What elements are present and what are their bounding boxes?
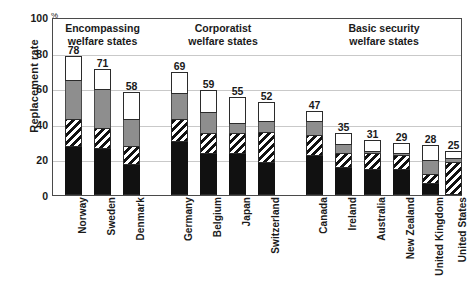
bar-segment-segment-3-gray — [171, 94, 188, 121]
bar-segment-segment-3-gray — [422, 161, 439, 175]
bar-segment-segment-3-gray — [65, 81, 82, 120]
bar-segment-segment-1-black — [258, 163, 275, 195]
x-axis-label-denmark: Denmark — [135, 197, 146, 241]
bar-segment-segment-2-hatched — [258, 133, 275, 163]
bar-segment-segment-4-white — [393, 143, 410, 154]
y-axis-tick-40: 40 — [22, 119, 48, 131]
bar-segment-segment-3-gray — [393, 154, 410, 156]
bar-segment-segment-2-hatched — [123, 147, 140, 165]
bar-new-zealand[interactable] — [393, 143, 410, 195]
bar-segment-segment-1-black — [306, 156, 323, 195]
bar-segment-segment-1-black — [65, 147, 82, 195]
plot-area: Encompassingwelfare statesCorporatistwel… — [52, 18, 462, 196]
bar-norway[interactable] — [65, 56, 82, 195]
bar-segment-segment-2-hatched — [229, 134, 246, 154]
bar-segment-segment-4-white — [65, 56, 82, 81]
bar-japan[interactable] — [229, 97, 246, 195]
bar-segment-segment-4-white — [364, 140, 381, 152]
bar-segment-segment-1-black — [393, 170, 410, 195]
bar-segment-segment-2-hatched — [171, 120, 188, 141]
x-axis-category-labels: NorwaySwedenDenmarkGermanyBelgiumJapanSw… — [0, 197, 467, 285]
bar-value-label: 71 — [85, 57, 120, 69]
stacked-bar-chart: Replacement rate % 020406080100 Encompas… — [0, 0, 467, 285]
x-axis-label-norway: Norway — [77, 197, 88, 234]
bar-germany[interactable] — [171, 72, 188, 195]
bar-segment-segment-3-gray — [258, 122, 275, 133]
bar-segment-segment-4-white — [171, 72, 188, 93]
bar-segment-segment-2-hatched — [393, 156, 410, 170]
bar-value-label: 52 — [249, 90, 284, 102]
bars-layer: 78715869595552473531292825 — [53, 19, 461, 195]
bar-segment-segment-4-white — [200, 90, 217, 113]
bar-segment-segment-4-white — [445, 151, 462, 160]
x-axis-label-germany: Germany — [183, 197, 194, 241]
x-axis-label-sweden: Sweden — [106, 197, 117, 235]
x-axis-label-united-kingdom: United Kingdom — [434, 197, 445, 276]
bar-segment-segment-3-gray — [306, 122, 323, 136]
bar-switzerland[interactable] — [258, 102, 275, 195]
bar-segment-segment-2-hatched — [306, 136, 323, 156]
bar-segment-segment-4-white — [229, 97, 246, 124]
bar-segment-segment-1-black — [422, 184, 439, 195]
bar-segment-segment-1-black — [335, 168, 352, 195]
bar-ireland[interactable] — [335, 133, 352, 195]
x-axis-label-switzerland: Switzerland — [270, 197, 281, 254]
bar-segment-segment-3-gray — [364, 152, 381, 154]
bar-segment-segment-2-hatched — [200, 134, 217, 154]
bar-segment-segment-4-white — [123, 92, 140, 120]
bar-segment-segment-3-gray — [123, 120, 140, 147]
x-axis-label-canada: Canada — [318, 197, 329, 234]
x-axis-label-ireland: Ireland — [347, 197, 358, 231]
bar-segment-segment-3-gray — [335, 145, 352, 154]
bar-segment-segment-1-black — [229, 154, 246, 195]
y-axis-tick-60: 60 — [22, 83, 48, 95]
bar-segment-segment-2-hatched — [94, 129, 111, 149]
bar-segment-segment-4-white — [306, 111, 323, 122]
bar-sweden[interactable] — [94, 69, 111, 195]
bar-value-label: 69 — [162, 60, 197, 72]
x-axis-label-japan: Japan — [241, 197, 252, 226]
x-axis-label-united-states: United States — [457, 197, 467, 262]
bar-segment-segment-1-black — [364, 170, 381, 195]
y-axis-tick-80: 80 — [22, 48, 48, 60]
bar-segment-segment-1-black — [171, 142, 188, 195]
bar-segment-segment-1-black — [123, 165, 140, 195]
bar-segment-segment-2-hatched — [65, 120, 82, 147]
bar-segment-segment-2-hatched — [335, 154, 352, 168]
bar-segment-segment-4-white — [94, 69, 111, 90]
bar-value-label: 58 — [114, 80, 149, 92]
bar-canada[interactable] — [306, 111, 323, 195]
bar-united-states[interactable] — [445, 151, 462, 196]
x-axis-label-belgium: Belgium — [212, 197, 223, 237]
x-axis-label-australia: Australia — [376, 197, 387, 241]
x-axis-label-new-zealand: New Zealand — [405, 197, 416, 259]
bar-segment-segment-2-hatched — [364, 154, 381, 170]
bar-belgium[interactable] — [200, 90, 217, 195]
bar-segment-segment-4-white — [335, 133, 352, 145]
bar-segment-segment-1-black — [94, 149, 111, 195]
bar-value-label: 25 — [436, 139, 467, 151]
bar-segment-segment-3-gray — [229, 124, 246, 135]
bar-value-label: 78 — [56, 44, 91, 56]
bar-segment-segment-2-hatched — [445, 163, 462, 195]
bar-segment-segment-3-gray — [445, 159, 462, 163]
bar-segment-segment-3-gray — [94, 90, 111, 129]
bar-segment-segment-1-black — [200, 154, 217, 195]
bar-united-kingdom[interactable] — [422, 145, 439, 195]
bar-value-label: 47 — [297, 99, 332, 111]
y-axis-tick-20: 20 — [22, 154, 48, 166]
bar-denmark[interactable] — [123, 92, 140, 195]
bar-segment-segment-2-hatched — [422, 175, 439, 184]
bar-segment-segment-3-gray — [200, 113, 217, 134]
bar-australia[interactable] — [364, 140, 381, 195]
bar-segment-segment-4-white — [258, 102, 275, 122]
